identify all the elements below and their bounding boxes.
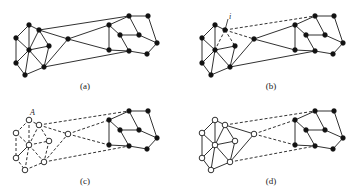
panel-label: (a) [80, 81, 90, 91]
open-vertex [251, 131, 257, 137]
filled-vertex [223, 28, 228, 33]
edge [215, 30, 225, 50]
edge [68, 39, 109, 50]
edge [109, 50, 129, 51]
open-vertex [41, 159, 47, 165]
filled-vertex [145, 147, 150, 152]
filled-vertex [200, 61, 205, 66]
filled-vertex [331, 147, 336, 152]
open-vertex [212, 142, 218, 148]
open-vertex [199, 130, 205, 136]
edge [120, 35, 129, 51]
open-vertex [227, 159, 233, 165]
filled-vertex [155, 41, 160, 46]
filled-vertex [66, 37, 71, 42]
edge [215, 50, 230, 67]
filled-vertex [146, 14, 151, 19]
edge [68, 134, 109, 145]
edge [25, 67, 44, 75]
edge [211, 67, 230, 75]
open-vertex [36, 122, 42, 128]
filled-vertex [332, 14, 337, 19]
edge [29, 50, 44, 67]
edge [39, 16, 129, 30]
filled-vertex [118, 33, 123, 38]
filled-vertex [213, 23, 218, 28]
filled-vertex [332, 109, 337, 114]
filled-vertex [331, 52, 336, 57]
edge [225, 16, 315, 30]
graph-partition-figure: (a)i(b)A(c)(d) [0, 0, 358, 194]
panel-label: (d) [266, 176, 277, 186]
filled-vertex [107, 23, 112, 28]
edge [129, 51, 147, 54]
open-vertex [65, 131, 71, 137]
edge [215, 46, 235, 50]
edge [254, 25, 295, 39]
filled-vertex [155, 136, 160, 141]
filled-vertex [137, 128, 142, 133]
open-vertex [222, 122, 228, 128]
edge [29, 30, 39, 50]
filled-vertex [145, 52, 150, 57]
edge [225, 30, 254, 39]
edge [109, 145, 129, 146]
edge [129, 111, 139, 130]
edge [230, 51, 315, 67]
edge [39, 125, 68, 134]
edge [68, 25, 109, 39]
edge [306, 130, 315, 146]
edge [129, 146, 147, 149]
filled-vertex [107, 143, 112, 148]
open-vertex [212, 117, 218, 123]
filled-vertex [200, 36, 205, 41]
panel-a: (a) [14, 14, 160, 91]
open-vertex [22, 167, 28, 173]
filled-vertex [127, 49, 132, 54]
edge [295, 145, 315, 146]
edge [334, 16, 343, 43]
filled-vertex [313, 109, 318, 114]
filled-vertex [293, 118, 298, 123]
filled-vertex [313, 144, 318, 149]
edge [315, 16, 325, 35]
filled-vertex [37, 28, 42, 33]
edge [295, 50, 315, 51]
edge [39, 111, 129, 125]
filled-vertex [47, 44, 52, 49]
panel-c: A(c) [13, 108, 159, 186]
edge [29, 145, 44, 162]
filled-vertex [341, 136, 346, 141]
edge [254, 134, 295, 145]
filled-vertex [14, 36, 19, 41]
open-vertex [26, 142, 32, 148]
panel-d: (d) [199, 109, 345, 186]
open-vertex [26, 117, 32, 123]
filled-vertex [323, 33, 328, 38]
filled-vertex [209, 73, 214, 78]
figure-canvas: (a)i(b)A(c)(d) (a) (b) (c) (d) [0, 0, 358, 194]
filled-vertex [27, 48, 32, 53]
edge [225, 111, 315, 125]
filled-vertex [107, 118, 112, 123]
filled-vertex [137, 33, 142, 38]
open-vertex [13, 155, 19, 161]
filled-vertex [228, 65, 233, 70]
edge [16, 25, 29, 38]
open-vertex [232, 138, 238, 144]
edge [148, 111, 157, 138]
edge [254, 120, 295, 134]
filled-vertex [27, 23, 32, 28]
edge [129, 16, 139, 35]
filled-vertex [118, 128, 123, 133]
filled-vertex [323, 128, 328, 133]
filled-vertex [42, 65, 47, 70]
filled-vertex [127, 144, 132, 149]
filled-vertex [293, 23, 298, 28]
panel-label: (c) [80, 176, 90, 186]
filled-vertex [304, 128, 309, 133]
filled-vertex [293, 143, 298, 148]
panel-b: i(b) [200, 12, 346, 91]
edge [120, 130, 129, 146]
edge [215, 145, 230, 162]
